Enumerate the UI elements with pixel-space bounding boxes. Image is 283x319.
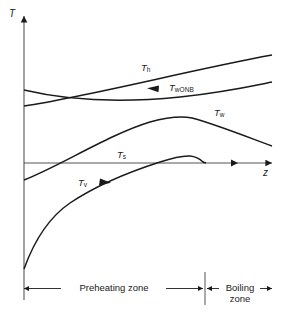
temperature-axis-label: T (9, 8, 15, 19)
fluid-bulk-temperature-label: Tv (78, 178, 87, 189)
wall-onset-nucleate-boiling-curve (24, 82, 272, 100)
diagram-svg (0, 0, 283, 319)
saturation-temperature-label: Ts (117, 150, 126, 161)
boiling-zone-label: Boiling zone (219, 283, 261, 305)
wall-temperature-curve (24, 117, 272, 180)
preheating-zone-label: Preheating zone (63, 283, 165, 294)
axis-mid-arrowhead-icon (231, 159, 238, 166)
fluid-bulk-temperature-curve (24, 156, 206, 269)
figure-canvas: T z Th TwONB Tw Ts Tv Preheating zone Bo… (0, 0, 283, 319)
axial-coordinate-axis-label: z (263, 167, 268, 178)
wall-temperature-label: Tw (214, 108, 225, 119)
wall-onset-nucleate-boiling-label: TwONB (169, 83, 194, 94)
heating-medium-temperature-label: Th (141, 63, 151, 74)
heating-medium-direction-arrow-icon (147, 86, 159, 93)
